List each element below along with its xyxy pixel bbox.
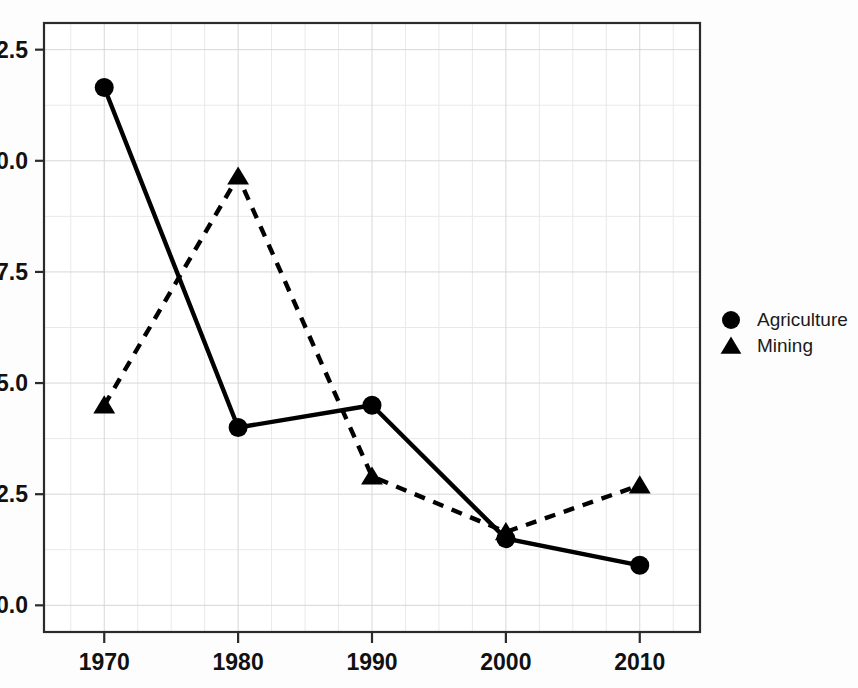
triangle-marker-icon bbox=[721, 337, 742, 354]
y-tick-label: 10.0 bbox=[0, 148, 28, 174]
line-chart-canvas: 12.510.07.55.02.50.0 1970198019902000201… bbox=[0, 0, 858, 688]
y-tick-label: 12.5 bbox=[0, 37, 28, 63]
x-tick-label: 1970 bbox=[79, 649, 130, 675]
x-axis-tick-labels: 19701980199020002010 bbox=[79, 649, 666, 675]
x-axis-tickmarks bbox=[104, 632, 640, 643]
x-tick-label: 2000 bbox=[480, 649, 531, 675]
datapoint-agriculture-1990 bbox=[363, 396, 382, 415]
y-tick-label: 7.5 bbox=[0, 259, 28, 285]
x-tick-label: 2010 bbox=[614, 649, 665, 675]
y-axis-tick-labels: 12.510.07.55.02.50.0 bbox=[0, 37, 28, 619]
y-tick-label: 2.5 bbox=[0, 481, 28, 507]
y-axis-tickmarks bbox=[35, 50, 44, 606]
datapoint-agriculture-1980 bbox=[229, 418, 248, 437]
legend-label: Agriculture bbox=[757, 309, 848, 330]
chart-figure: 12.510.07.55.02.50.0 1970198019902000201… bbox=[0, 0, 858, 688]
x-tick-label: 1990 bbox=[346, 649, 397, 675]
legend-label: Mining bbox=[757, 335, 813, 356]
legend-item-mining: Mining bbox=[721, 335, 813, 356]
chart-legend: AgricultureMining bbox=[721, 309, 848, 356]
x-tick-label: 1980 bbox=[213, 649, 264, 675]
legend-item-agriculture: Agriculture bbox=[722, 309, 848, 330]
circle-marker-icon bbox=[722, 311, 740, 329]
datapoint-agriculture-1970 bbox=[95, 78, 114, 97]
datapoint-agriculture-2010 bbox=[630, 556, 649, 575]
y-tick-label: 5.0 bbox=[0, 370, 28, 396]
y-tick-label: 0.0 bbox=[0, 592, 28, 618]
